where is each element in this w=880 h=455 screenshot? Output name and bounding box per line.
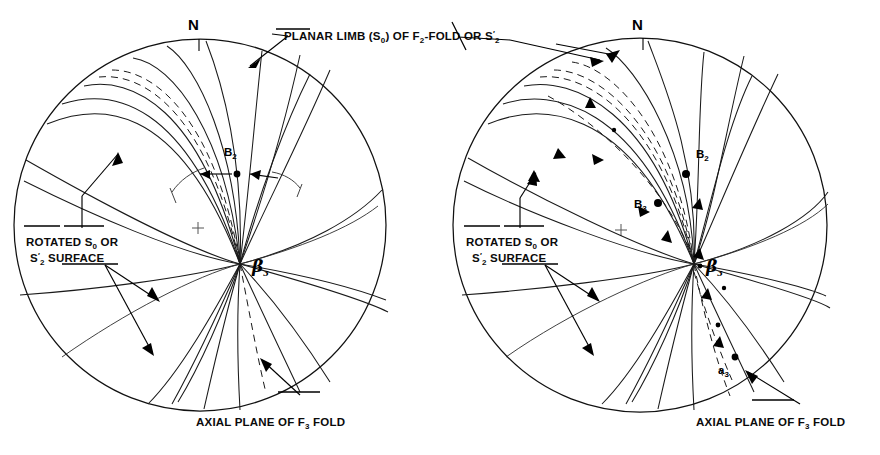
callout-planar-limb-right [452, 22, 604, 67]
great-circle-fan-right-lower [602, 264, 784, 410]
beta3-label-left: β3 [251, 256, 269, 278]
rotation-trajectory-right [548, 96, 732, 380]
axial-plane-label-right: AXIAL PLANE OF F3 FOLD [696, 416, 845, 431]
left-stereonet [14, 29, 388, 411]
right-stereonet [452, 22, 830, 412]
stereonet-figure: N B2 β3 ROTATED S0 OR S′2 SURFACE AXIAL … [0, 0, 880, 455]
rotated-surface-label-left-line1: ROTATED S0 OR [26, 236, 119, 251]
a3-label-right: a3 [718, 364, 729, 379]
b2-point-right [682, 170, 690, 178]
b2-point-left [234, 171, 241, 178]
callout-axial-left [260, 358, 320, 395]
great-circle-fan-left-lower [148, 264, 330, 410]
primitive-circle-left [14, 39, 386, 411]
a3-point-right [732, 354, 739, 361]
rotated-surface-label-right-line1: ROTATED S0 OR [466, 236, 559, 251]
axial-plane-label-left: AXIAL PLANE OF F3 FOLD [196, 416, 345, 431]
limb-traces-left [20, 55, 388, 404]
callout-axial-right [745, 370, 800, 404]
great-circle-fan-right [488, 41, 752, 264]
north-label-left: N [188, 16, 199, 33]
figure-canvas: N B2 β3 ROTATED S0 OR S′2 SURFACE AXIAL … [0, 0, 880, 455]
limb-traces-right [462, 56, 830, 404]
b3-point-right [654, 199, 662, 207]
great-circle-fan-left [47, 41, 310, 264]
beta3-label-right: β3 [705, 256, 723, 278]
north-label-right: N [632, 16, 643, 33]
b2-label-right: B2 [696, 148, 709, 163]
center-cross-left [192, 222, 204, 234]
